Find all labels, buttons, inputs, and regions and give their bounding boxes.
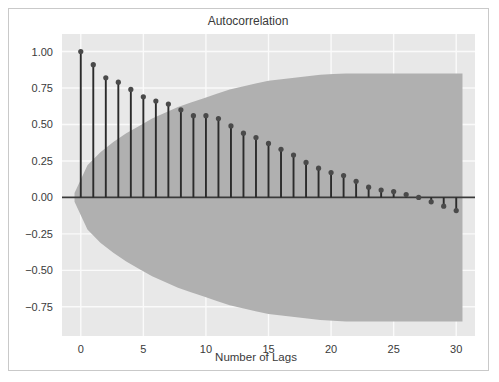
x-tick-label: 20 (325, 343, 337, 355)
y-tick-label: 0.25 (32, 155, 53, 167)
y-tick-label: 0.50 (32, 118, 53, 130)
y-tick-label: −0.50 (25, 264, 53, 276)
figure-canvas: 051015202530 1.000.750.500.250.00−0.25−0… (0, 0, 499, 382)
y-tick-label: 0.75 (32, 82, 53, 94)
y-tick-label: −0.75 (25, 301, 53, 313)
x-tick-label: 10 (200, 343, 212, 355)
y-axis-tick-labels: 1.000.750.500.250.00−0.25−0.50−0.75 (25, 46, 53, 313)
autocorrelation-chart: 051015202530 1.000.750.500.250.00−0.25−0… (9, 9, 488, 370)
chart-title: Autocorrelation (208, 14, 289, 28)
figure-frame: 051015202530 1.000.750.500.250.00−0.25−0… (8, 8, 489, 371)
x-axis-title: Number of Lags (215, 351, 297, 363)
y-tick-label: 0.00 (32, 191, 53, 203)
y-tick-label: −0.25 (25, 228, 53, 240)
y-tick-label: 1.00 (32, 46, 53, 58)
x-tick-label: 5 (140, 343, 146, 355)
x-tick-label: 0 (78, 343, 84, 355)
x-tick-label: 25 (388, 343, 400, 355)
x-tick-label: 30 (450, 343, 462, 355)
